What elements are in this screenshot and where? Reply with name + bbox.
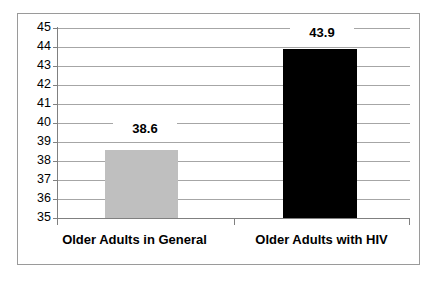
y-tick-mark-37 [53, 180, 58, 181]
y-tick-mark-38 [53, 161, 58, 162]
y-tick-mark-41 [53, 104, 58, 105]
gridline-42 [58, 85, 410, 86]
y-tick-label-38: 38 [23, 154, 51, 167]
bar-older-adults-in-general[interactable] [105, 150, 178, 218]
y-tick-label-39: 39 [23, 135, 51, 148]
data-label-older-adults-with-hiv: 43.9 [290, 25, 354, 40]
data-label-older-adults-in-general: 38.6 [113, 121, 177, 136]
y-tick-label-45: 45 [23, 21, 51, 34]
y-tick-mark-42 [53, 85, 58, 86]
category-tick-left [57, 218, 58, 225]
y-tick-label-40: 40 [23, 116, 51, 129]
y-tick-mark-43 [53, 66, 58, 67]
bar-chart: 45 44 43 42 41 40 39 38 37 36 35 38.6 43… [0, 0, 435, 282]
y-tick-label-44: 44 [23, 40, 51, 53]
y-tick-label-36: 36 [23, 192, 51, 205]
y-tick-mark-44 [53, 47, 58, 48]
y-tick-label-43: 43 [23, 59, 51, 72]
gridline-44 [58, 47, 410, 48]
y-tick-label-35: 35 [23, 211, 51, 224]
category-tick-right [409, 218, 410, 225]
bar-older-adults-with-hiv[interactable] [283, 49, 357, 218]
plot-area [58, 28, 410, 218]
y-tick-label-37: 37 [23, 173, 51, 186]
gridline-39 [58, 142, 410, 143]
y-tick-label-42: 42 [23, 78, 51, 91]
category-tick-middle [234, 218, 235, 225]
category-label-older-adults-in-general: Older Adults in General [47, 232, 222, 248]
gridline-45 [58, 28, 410, 29]
y-tick-mark-40 [53, 123, 58, 124]
y-axis-labels: 45 44 43 42 41 40 39 38 37 36 35 [21, 0, 51, 252]
gridline-41 [58, 104, 410, 105]
y-tick-mark-36 [53, 199, 58, 200]
gridline-43 [58, 66, 410, 67]
y-tick-label-41: 41 [23, 97, 51, 110]
gridline-40 [58, 123, 410, 124]
y-tick-mark-39 [53, 142, 58, 143]
category-label-older-adults-with-hiv: Older Adults with HIV [234, 232, 409, 248]
y-tick-mark-45 [53, 28, 58, 29]
